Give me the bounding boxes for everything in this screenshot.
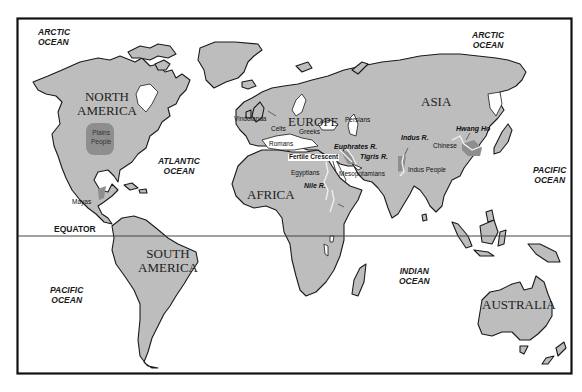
south-america-landmass [112, 216, 198, 368]
new-guinea [528, 244, 560, 262]
ocean-label-pacific-e: PACIFIC OCEAN [533, 165, 566, 185]
continent-label-north-america: NORTH AMERICA [77, 90, 137, 118]
label-celts: Celts [271, 126, 286, 133]
japan [494, 124, 512, 154]
label-euphrates-river: Euphrates R. [334, 143, 377, 150]
label-chinese: Chinese [433, 143, 457, 150]
sumatra [452, 222, 472, 248]
equator-label: EQUATOR [54, 225, 96, 234]
tasmania [520, 346, 528, 354]
arctic-islands [128, 44, 176, 60]
ocean-label-pacific-w: PACIFIC OCEAN [50, 285, 83, 305]
label-mayas: Mayas [72, 199, 91, 206]
ocean-label-arctic-nw: ARCTIC OCEAN [38, 27, 70, 47]
label-egyptians: Egyptians [291, 170, 320, 177]
label-indus-river: Indus R. [401, 134, 429, 141]
label-indus-people: Indus People [408, 167, 446, 174]
iceland [242, 80, 256, 89]
continent-label-australia: AUSTRALIA [482, 298, 556, 312]
continent-label-asia: ASIA [421, 95, 451, 109]
continent-label-south-america: SOUTH AMERICA [138, 247, 198, 275]
borneo [480, 220, 498, 244]
label-greeks: Greeks [299, 129, 320, 136]
continent-label-africa: AFRICA [247, 188, 295, 202]
continent-label-europe: EUROPE [288, 115, 339, 129]
label-tigris-river: Tigris R. [360, 153, 388, 160]
label-vindolanda: Vindolanda [234, 116, 266, 123]
label-mesopotamians: Mesopotamians [339, 171, 385, 178]
ocean-label-atlantic: ATLANTIC OCEAN [158, 156, 200, 176]
label-fertile-crescent: Fertile Crescent [288, 154, 339, 161]
label-persians: Persians [345, 117, 370, 124]
label-romans: Romans [269, 141, 293, 148]
ocean-label-indian: INDIAN OCEAN [399, 266, 430, 286]
ocean-label-arctic-ne: ARCTIC OCEAN [472, 30, 504, 50]
label-nile-river: Nile R. [304, 182, 326, 189]
label-hwang-ho-river: Hwang Ho [456, 125, 490, 132]
madagascar [352, 264, 366, 296]
new-zealand [556, 342, 566, 356]
label-plains-people: Plains People [91, 130, 111, 145]
